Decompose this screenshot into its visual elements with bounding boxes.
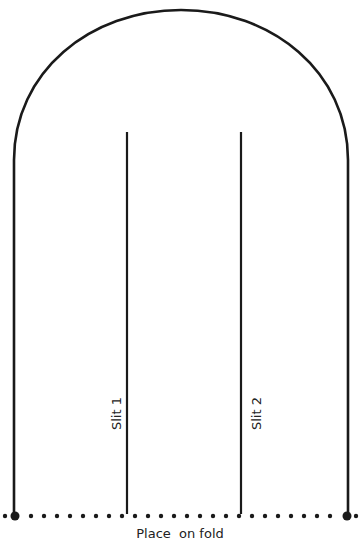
- slit-1-label: Slit 1: [109, 397, 124, 430]
- fold-line-dots: [3, 514, 358, 518]
- pattern-diagram: Slit 1 Slit 2 Place on fold: [0, 0, 359, 554]
- fold-label: Place on fold: [136, 526, 224, 541]
- fold-end-dot-right: [343, 512, 352, 521]
- pattern-outline: [14, 10, 348, 516]
- slit-2-label: Slit 2: [249, 397, 264, 430]
- fold-end-dot-left: [11, 512, 20, 521]
